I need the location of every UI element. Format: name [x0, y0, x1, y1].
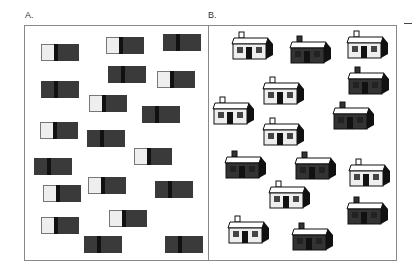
edge-tick [404, 23, 412, 24]
light-box-icon [106, 37, 144, 54]
light-box-icon [157, 71, 195, 88]
dark-house-icon [288, 35, 332, 65]
dark-house-icon [345, 196, 389, 226]
dark-box-icon [87, 130, 125, 147]
light-house-icon [261, 76, 305, 106]
dark-house-icon [223, 150, 267, 180]
dark-box-icon [108, 66, 146, 83]
dark-box-icon [155, 181, 193, 198]
panel-b-label: B. [208, 10, 217, 20]
dark-box-icon [142, 106, 180, 123]
dark-box-icon [163, 34, 201, 51]
panel-a-label: A. [25, 10, 34, 20]
dark-box-icon [165, 236, 203, 253]
light-box-icon [134, 148, 172, 165]
light-house-icon [230, 31, 274, 61]
light-house-icon [347, 158, 391, 188]
dark-house-icon [293, 151, 337, 181]
light-box-icon [89, 95, 127, 112]
dark-house-icon [290, 222, 334, 252]
dark-box-icon [34, 158, 72, 175]
light-house-icon [211, 96, 255, 126]
light-house-icon [267, 180, 311, 210]
light-box-icon [40, 122, 78, 139]
light-house-icon [345, 30, 389, 60]
light-house-icon [226, 215, 270, 245]
light-box-icon [88, 177, 126, 194]
light-box-icon [43, 185, 81, 202]
dark-house-icon [346, 66, 390, 96]
light-box-icon [41, 44, 79, 61]
dark-box-icon [41, 81, 79, 98]
light-house-icon [261, 117, 305, 147]
light-box-icon [41, 217, 79, 234]
dark-house-icon [331, 101, 375, 131]
light-box-icon [109, 210, 147, 227]
dark-box-icon [84, 236, 122, 253]
